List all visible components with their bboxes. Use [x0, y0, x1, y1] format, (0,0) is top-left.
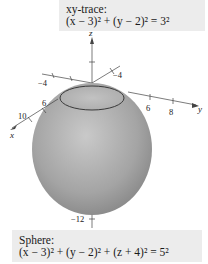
x-tick-10: 10 [18, 111, 27, 121]
y-tick-neg4: −4 [113, 70, 123, 80]
x-tick-neg4: −4 [38, 78, 48, 88]
xy-trace-title: xy-trace: [66, 3, 107, 15]
sphere-caption: Sphere: (x − 3)² + (y − 2)² + (z + 4)² =… [12, 230, 202, 262]
y-axis-label: y [197, 104, 202, 114]
sphere-equation: (x − 3)² + (y − 2)² + (z + 4)² = 5² [19, 246, 169, 258]
z-tick-neg12: −12 [71, 214, 84, 224]
y-tick-8: 8 [169, 107, 173, 117]
y-tick-6: 6 [146, 103, 150, 113]
sphere-figure: z y x −4 6 8 −4 6 10 −12 [0, 0, 208, 264]
x-axis-label: x [9, 130, 14, 140]
sphere-title: Sphere: [19, 234, 54, 246]
xy-trace-ellipse [60, 86, 124, 110]
xy-trace-caption: xy-trace: (x − 3)² + (y − 2)² = 3² [59, 0, 205, 31]
xy-trace-equation: (x − 3)² + (y − 2)² = 3² [66, 15, 169, 27]
x-tick-6: 6 [42, 98, 46, 108]
z-axis-arrow-icon [90, 37, 94, 44]
